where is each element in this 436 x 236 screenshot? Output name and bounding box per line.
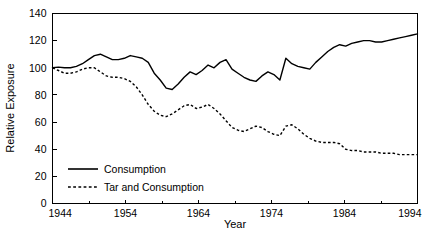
y-tick-label-140: 140: [29, 7, 47, 19]
y-tick-label-60: 60: [35, 116, 47, 128]
chart-figure: 020406080100120140 194419541964197419841…: [0, 0, 436, 236]
line-chart: 020406080100120140 194419541964197419841…: [0, 0, 436, 236]
x-axis-title: Year: [224, 218, 247, 230]
x-axis-ticks: [53, 200, 418, 204]
y-axis-title: Relative Exposure: [4, 63, 16, 152]
x-tick-label-1974: 1974: [260, 207, 284, 219]
x-tick-label-1944: 1944: [49, 207, 73, 219]
y-tick-label-20: 20: [35, 170, 47, 182]
legend-label-consumption: Consumption: [104, 163, 166, 175]
y-tick-label-120: 120: [29, 34, 47, 46]
y-tick-label-100: 100: [29, 62, 47, 74]
y-axis-ticks: [53, 14, 57, 204]
y-tick-label-80: 80: [35, 89, 47, 101]
series-line-tar-and-consumption: [53, 68, 418, 155]
x-tick-label-1964: 1964: [187, 207, 211, 219]
y-tick-label-40: 40: [35, 143, 47, 155]
x-tick-label-1984: 1984: [333, 207, 357, 219]
chart-legend: Consumption Tar and Consumption: [68, 163, 204, 193]
y-axis-tick-labels: 020406080100120140: [29, 7, 47, 209]
legend-label-tar-and-consumption: Tar and Consumption: [104, 181, 204, 193]
x-tick-label-1954: 1954: [114, 207, 138, 219]
y-tick-label-0: 0: [41, 197, 47, 209]
series-line-consumption: [53, 34, 418, 90]
x-axis-tick-labels: 194419541964197419841994: [49, 207, 422, 219]
plot-frame: [53, 14, 418, 204]
x-tick-label-1994: 1994: [398, 207, 422, 219]
series-group: [53, 34, 418, 155]
